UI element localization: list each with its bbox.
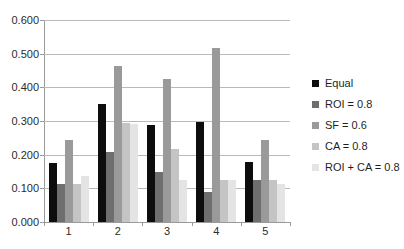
x-tick-mark [44,222,45,226]
x-axis-tick-label: 2 [93,226,142,237]
y-axis-tick-label: 0.000 [11,217,39,228]
bar [261,140,269,222]
legend-swatch-icon [312,143,319,150]
bar [253,180,261,222]
bar-chart-figure: 0.0000.1000.2000.3000.4000.5000.600 1234… [0,0,404,249]
bar [212,48,220,222]
legend-item[interactable]: CA = 0.8 [312,141,400,151]
legend-item-label: CA = 0.8 [325,141,368,152]
y-axis-tick-label: 0.100 [11,183,39,194]
bar [269,180,277,222]
bar-group [44,20,93,222]
bar-group [192,20,241,222]
bar [147,125,155,222]
bar-group [142,20,191,222]
bar [122,123,130,222]
bar [220,180,228,222]
legend-item-label: Equal [325,78,353,89]
bar [114,66,122,222]
y-axis-tick-label: 0.500 [11,48,39,59]
legend-swatch-icon [312,164,319,171]
bar [204,192,212,222]
legend-item[interactable]: ROI = 0.8 [312,99,400,109]
x-axis-tick-label: 3 [142,226,191,237]
bar [81,176,89,222]
bar [155,172,163,222]
x-tick-mark [290,222,291,226]
bar [245,162,253,222]
y-axis-tick-label: 0.200 [11,149,39,160]
bar [106,152,114,222]
bar [179,180,187,222]
bar [196,122,204,222]
chart-legend: EqualROI = 0.8SF = 0.6CA = 0.8ROI + CA =… [312,78,400,172]
legend-item[interactable]: Equal [312,78,400,88]
plot-area: 0.0000.1000.2000.3000.4000.5000.600 [44,20,290,222]
gridline [44,222,290,223]
bar [57,184,65,222]
legend-item[interactable]: SF = 0.6 [312,120,400,130]
x-axis-tick-label: 4 [192,226,241,237]
x-tick-mark [142,222,143,226]
bar [49,163,57,222]
x-axis-tick-label: 5 [241,226,290,237]
x-tick-mark [241,222,242,226]
legend-item-label: ROI = 0.8 [325,99,372,110]
legend-item-label: ROI + CA = 0.8 [325,162,400,173]
y-axis-tick-label: 0.300 [11,116,39,127]
bar [130,124,138,222]
bar [171,149,179,222]
bar [73,184,81,222]
x-axis-tick-labels: 12345 [44,226,290,237]
bar-group [93,20,142,222]
x-axis-tick-label: 1 [44,226,93,237]
legend-swatch-icon [312,80,319,87]
bar [65,140,73,222]
legend-swatch-icon [312,101,319,108]
y-axis-tick-label: 0.400 [11,82,39,93]
legend-item-label: SF = 0.6 [325,120,367,131]
bars-layer [44,20,290,222]
bar [98,104,106,222]
x-tick-mark [192,222,193,226]
bar-group [241,20,290,222]
bar [163,79,171,222]
legend-item[interactable]: ROI + CA = 0.8 [312,162,400,172]
legend-swatch-icon [312,122,319,129]
bar [277,184,285,222]
bar [228,180,236,222]
y-axis-tick-label: 0.600 [11,15,39,26]
x-tick-mark [93,222,94,226]
